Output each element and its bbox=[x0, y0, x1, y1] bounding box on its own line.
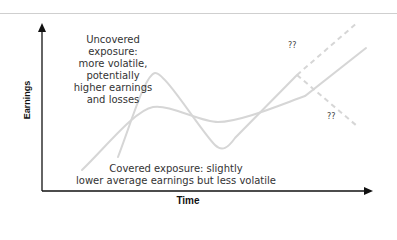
uncertain-upside-label: ?? bbox=[288, 40, 297, 52]
x-axis-arrow-icon bbox=[364, 187, 373, 195]
annotation-line: potentially bbox=[58, 70, 168, 82]
annotation-line: Uncovered bbox=[58, 34, 168, 46]
annotation-line: exposure: bbox=[58, 46, 168, 58]
annotation-line: lower average earnings but less volatile bbox=[76, 175, 276, 187]
uncovered-exposure-annotation: Uncovered exposure: more volatile, poten… bbox=[58, 34, 168, 106]
x-axis-label: Time bbox=[168, 195, 208, 207]
annotation-line: higher earnings bbox=[58, 82, 168, 94]
annotation-line: Covered exposure: slightly bbox=[76, 163, 276, 175]
uncertain-downside-label: ?? bbox=[327, 111, 336, 123]
y-axis-arrow-icon bbox=[38, 23, 46, 32]
annotation-line: more volatile, bbox=[58, 58, 168, 70]
uncovered-upside-dashed bbox=[297, 22, 358, 75]
covered-exposure-annotation: Covered exposure: slightly lower average… bbox=[76, 163, 276, 187]
annotation-line: and losses bbox=[58, 94, 168, 106]
y-axis-label: Earnings bbox=[21, 74, 33, 126]
